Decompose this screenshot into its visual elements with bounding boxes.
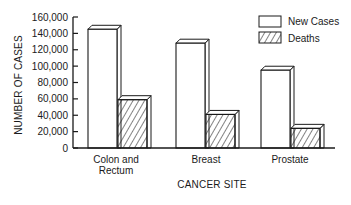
category-label: Rectum — [99, 165, 133, 176]
y-tick-label: 0 — [62, 143, 68, 154]
bar-deaths — [118, 96, 151, 148]
bar-chart: 020,00040,00060,00080,000100,000120,0001… — [0, 0, 351, 205]
y-tick-label: 40,000 — [37, 110, 68, 121]
y-tick-label: 160,000 — [32, 12, 69, 23]
category-label: Breast — [192, 154, 221, 165]
y-tick-label: 140,000 — [32, 28, 69, 39]
y-tick-label: 120,000 — [32, 44, 69, 55]
bar-deaths — [206, 110, 239, 148]
legend-swatch-new-cases — [259, 16, 281, 27]
y-tick-label: 20,000 — [37, 126, 68, 137]
y-tick-label: 80,000 — [37, 77, 68, 88]
x-axis-title: CANCER SITE — [177, 179, 247, 190]
legend-label-new-cases: New Cases — [288, 16, 339, 27]
category-label: Prostate — [271, 154, 309, 165]
category-labels: Colon andRectumBreastProstate — [93, 154, 309, 176]
bar-new-cases — [88, 25, 121, 148]
y-tick-label: 60,000 — [37, 93, 68, 104]
category-label: Colon and — [93, 154, 139, 165]
legend-swatch-deaths — [259, 32, 281, 43]
bar-deaths — [291, 124, 324, 148]
legend-label-deaths: Deaths — [288, 33, 320, 44]
y-tick-label: 100,000 — [32, 61, 69, 72]
bar-new-cases — [261, 66, 294, 148]
y-axis-ticks: 020,00040,00060,00080,000100,000120,0001… — [32, 12, 78, 154]
bar-new-cases — [176, 39, 209, 148]
y-axis-title: NUMBER OF CASES — [13, 35, 24, 135]
legend: New Cases Deaths — [259, 16, 339, 44]
